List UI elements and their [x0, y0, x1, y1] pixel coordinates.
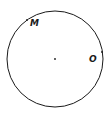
circle-diagram: M O [0, 0, 107, 117]
point-o-marker [101, 51, 103, 53]
label-o: O [89, 54, 97, 64]
label-m: M [30, 18, 39, 28]
center-point [54, 58, 56, 60]
point-m-marker [26, 19, 28, 21]
